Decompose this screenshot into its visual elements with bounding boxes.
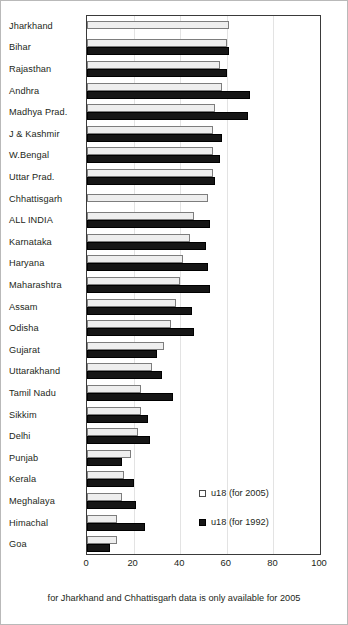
bar-u18-2005 [87, 39, 227, 47]
bar-u18-1992 [87, 112, 248, 120]
category-label: Himachal [9, 518, 81, 528]
category-label: ALL INDIA [9, 215, 81, 225]
bar-u18-1992 [87, 47, 229, 55]
category-label: Punjab [9, 453, 81, 463]
category-label: Karnataka [9, 237, 81, 247]
bar-u18-1992 [87, 285, 210, 293]
bar-u18-2005 [87, 147, 213, 155]
legend-label-1992: u18 (for 1992) [211, 517, 269, 527]
bar-u18-2005 [87, 471, 124, 479]
bar-u18-1992 [87, 458, 122, 466]
bar-u18-1992 [87, 307, 192, 315]
category-label: Odisha [9, 323, 81, 333]
plot-area [86, 15, 321, 555]
category-label: Kerala [9, 474, 81, 484]
bar-u18-2005 [87, 277, 180, 285]
category-label: J & Kashmir [9, 129, 81, 139]
bar-u18-2005 [87, 169, 213, 177]
bar-u18-2005 [87, 515, 117, 523]
legend-swatch-open-square-icon [199, 490, 206, 497]
bar-u18-1992 [87, 263, 208, 271]
bar-u18-2005 [87, 104, 215, 112]
bar-u18-1992 [87, 91, 250, 99]
bar-u18-1992 [87, 523, 145, 531]
bar-u18-2005 [87, 212, 194, 220]
category-label: Bihar [9, 42, 81, 52]
chart-legend: u18 (for 2005) u18 (for 1992) [199, 488, 309, 546]
bar-u18-1992 [87, 155, 220, 163]
bar-u18-1992 [87, 177, 215, 185]
bar-u18-1992 [87, 479, 134, 487]
bar-u18-2005 [87, 299, 176, 307]
category-axis: JharkhandBiharRajasthanAndhraMadhya Prad… [9, 15, 81, 555]
bar-u18-2005 [87, 363, 152, 371]
chart-footnote: for Jharkhand and Chhattisgarh data is o… [1, 593, 347, 603]
category-label: Gujarat [9, 345, 81, 355]
bar-u18-1992 [87, 393, 173, 401]
legend-label-2005: u18 (for 2005) [211, 488, 269, 498]
bar-u18-2005 [87, 61, 220, 69]
category-label: W.Bengal [9, 150, 81, 160]
category-label: Sikkim [9, 410, 81, 420]
gridline [273, 16, 274, 554]
x-tick-label: 20 [127, 557, 137, 568]
bar-u18-1992 [87, 501, 136, 509]
category-label: Haryana [9, 258, 81, 268]
bar-u18-1992 [87, 436, 150, 444]
category-label: Chhattisgarh [9, 194, 81, 204]
x-tick-label: 0 [83, 557, 88, 568]
bar-u18-1992 [87, 371, 162, 379]
bar-u18-1992 [87, 242, 206, 250]
category-label: Assam [9, 302, 81, 312]
bar-u18-2005 [87, 407, 141, 415]
x-tick-label: 40 [174, 557, 184, 568]
category-label: Delhi [9, 431, 81, 441]
category-label: Tamil Nadu [9, 388, 81, 398]
legend-item-1992: u18 (for 1992) [199, 517, 309, 527]
x-tick-label: 80 [267, 557, 277, 568]
bar-u18-2005 [87, 194, 208, 202]
legend-item-2005: u18 (for 2005) [199, 488, 309, 498]
bar-u18-2005 [87, 21, 229, 29]
bar-u18-2005 [87, 536, 117, 544]
bar-u18-2005 [87, 83, 222, 91]
category-label: Madhya Prad. [9, 107, 81, 117]
bar-u18-1992 [87, 415, 148, 423]
bar-u18-2005 [87, 126, 213, 134]
category-label: Meghalaya [9, 496, 81, 506]
x-axis: 020406080100 [86, 557, 321, 573]
bar-u18-1992 [87, 220, 210, 228]
category-label: Uttar Prad. [9, 172, 81, 182]
legend-swatch-filled-square-icon [199, 519, 206, 526]
bar-u18-2005 [87, 342, 164, 350]
bar-u18-2005 [87, 450, 131, 458]
bar-u18-1992 [87, 328, 194, 336]
bar-u18-2005 [87, 320, 171, 328]
category-label: Uttarakhand [9, 366, 81, 376]
x-tick-label: 100 [311, 557, 327, 568]
category-label: Rajasthan [9, 64, 81, 74]
category-label: Goa [9, 539, 81, 549]
bar-u18-1992 [87, 350, 157, 358]
category-label: Jharkhand [9, 21, 81, 31]
chart-figure: JharkhandBiharRajasthanAndhraMadhya Prad… [0, 0, 348, 625]
bar-u18-2005 [87, 385, 141, 393]
bar-u18-2005 [87, 493, 122, 501]
bar-u18-2005 [87, 428, 138, 436]
bar-u18-2005 [87, 234, 190, 242]
bar-u18-2005 [87, 255, 183, 263]
bar-u18-1992 [87, 69, 227, 77]
bar-u18-1992 [87, 544, 110, 552]
category-label: Maharashtra [9, 280, 81, 290]
x-tick-label: 60 [221, 557, 231, 568]
bar-u18-1992 [87, 134, 222, 142]
category-label: Andhra [9, 86, 81, 96]
